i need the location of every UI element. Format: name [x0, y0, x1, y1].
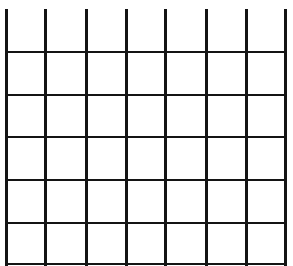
grid-vertical-line	[245, 9, 248, 266]
grid-vertical-line	[125, 9, 128, 266]
grid-vertical-line	[205, 9, 208, 266]
grid-diagram	[0, 0, 293, 266]
grid-vertical-line	[44, 9, 47, 266]
grid-vertical-line	[85, 9, 88, 266]
grid-vertical-line	[164, 9, 167, 266]
grid-vertical-line	[5, 9, 8, 266]
grid-vertical-line	[284, 9, 287, 266]
